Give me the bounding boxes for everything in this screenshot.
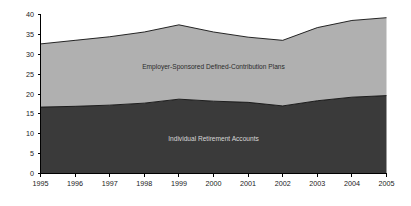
- y-tick-label: 30: [26, 50, 34, 59]
- x-tick-label: 1995: [33, 179, 49, 188]
- y-tick-label: 15: [26, 109, 34, 118]
- x-tick-label: 2001: [240, 179, 256, 188]
- x-tick-label: 2004: [344, 179, 360, 188]
- x-tick-label: 2003: [309, 179, 325, 188]
- employer-plans-label: Employer-Sponsored Defined-Contribution …: [142, 63, 285, 71]
- x-tick-label: 2002: [275, 179, 291, 188]
- chart-canvas: 0510152025303540 19951996199719981999200…: [0, 0, 411, 206]
- y-tick-label: 20: [26, 90, 34, 99]
- y-tick-label: 40: [26, 10, 34, 19]
- x-tick-label: 1998: [136, 179, 152, 188]
- x-tick-label: 2005: [379, 179, 395, 188]
- ira-label: Individual Retirement Accounts: [168, 135, 259, 142]
- y-tick-label: 35: [26, 30, 34, 39]
- stacked-area-chart: 0510152025303540 19951996199719981999200…: [0, 0, 411, 206]
- x-tick-label: 1999: [171, 179, 187, 188]
- x-tick-label: 1996: [67, 179, 83, 188]
- x-tick-label: 2000: [206, 179, 222, 188]
- x-tick-label: 1997: [102, 179, 118, 188]
- x-axis: 1995199619971998199920002001200220032004…: [33, 174, 395, 189]
- y-tick-label: 25: [26, 70, 34, 79]
- y-tick-label: 0: [30, 169, 34, 178]
- y-tick-label: 5: [30, 149, 34, 158]
- y-tick-label: 10: [26, 129, 34, 138]
- plot-bands: [41, 18, 387, 174]
- y-axis: 0510152025303540: [26, 10, 41, 178]
